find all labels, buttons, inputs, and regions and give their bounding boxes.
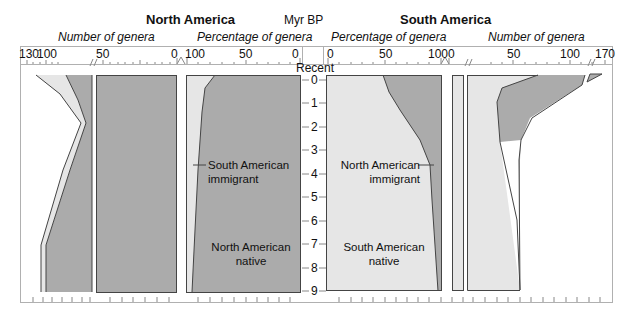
time-tick-6: 6 [311,214,318,228]
time-tick-0: 0 [311,73,318,87]
sa-native-annotation: South American native [336,240,432,268]
time-tick-5: 5 [311,190,318,204]
sa-percent-tick-0: 0 [327,47,334,61]
sa-number-break-wedge [587,74,602,82]
na-percent-tick-0: 0 [292,47,299,61]
sa-number-small-strip [453,76,464,291]
na-percent-tick-50: 50 [239,47,252,61]
time-tick-2: 2 [311,120,318,134]
na-immigrant-annotation: South American immigrant [208,158,289,186]
na-number-tick-0: 0 [171,47,178,61]
sa-percent-tick-50: 50 [379,47,392,61]
time-tick-8: 8 [311,261,318,275]
time-tick-9: 9 [311,284,318,298]
na-number-bulk-panel [97,76,177,293]
sa-percent-tick-100: 100 [428,47,448,61]
sa-number-tick-50: 50 [507,47,520,61]
time-tick-4: 4 [311,167,318,181]
time-tick-7: 7 [311,237,318,251]
sa-number-tick-100: 100 [560,47,580,61]
na-percent-tick-100: 100 [185,47,205,61]
na-number-tick-100: 100 [37,47,57,61]
time-axis-ticks [302,80,326,291]
time-tick-1: 1 [311,96,318,110]
sa-immigrant-annotation: North American immigrant [340,158,420,186]
na-native-annotation: North American native [203,240,299,268]
sa-number-tick-170: 170 [595,47,615,61]
sa-number-tick-0: 0 [448,47,455,61]
na-number-tick-50: 50 [96,47,109,61]
time-tick-3: 3 [311,143,318,157]
na-native-number-area [46,75,92,292]
